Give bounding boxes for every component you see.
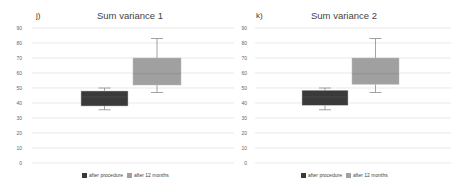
legend-item-after-12-months: after 12 months bbox=[346, 172, 388, 178]
box-iqr bbox=[302, 90, 348, 105]
box-after-12-months bbox=[352, 39, 399, 93]
y-tick-label: 50 bbox=[16, 85, 22, 91]
box-after-12-months bbox=[133, 39, 181, 93]
y-tick-label: 60 bbox=[241, 70, 247, 76]
y-tick-label: 10 bbox=[16, 145, 22, 151]
box-iqr bbox=[133, 58, 181, 85]
legend: after procedure after 12 months bbox=[82, 172, 169, 178]
legend-label: after procedure bbox=[308, 172, 342, 178]
legend-label: after 12 months bbox=[134, 172, 169, 178]
legend-label: after procedure bbox=[89, 172, 123, 178]
y-tick-label: 90 bbox=[241, 25, 247, 31]
y-tick-label: 80 bbox=[241, 40, 247, 46]
chart-panel-2: k) Sum variance 2 0102030405060708090 af… bbox=[234, 0, 469, 188]
legend-swatch bbox=[127, 173, 132, 178]
plot-area: 0102030405060708090 bbox=[0, 0, 234, 188]
legend-swatch bbox=[82, 173, 87, 178]
box-after-procedure bbox=[81, 88, 128, 110]
plot-area: 0102030405060708090 bbox=[234, 0, 469, 188]
y-tick-label: 20 bbox=[16, 130, 22, 136]
box-iqr bbox=[352, 58, 399, 84]
y-tick-label: 10 bbox=[241, 145, 247, 151]
legend-item-after-12-months: after 12 months bbox=[127, 172, 169, 178]
chart-panel-1: j) Sum variance 1 0102030405060708090 af… bbox=[0, 0, 234, 188]
y-tick-label: 50 bbox=[241, 85, 247, 91]
legend-label: after 12 months bbox=[353, 172, 388, 178]
y-tick-label: 40 bbox=[16, 100, 22, 106]
y-tick-label: 20 bbox=[241, 130, 247, 136]
legend-swatch bbox=[301, 173, 306, 178]
y-tick-label: 0 bbox=[244, 160, 247, 166]
legend-item-after-procedure: after procedure bbox=[301, 172, 342, 178]
y-tick-label: 80 bbox=[16, 40, 22, 46]
y-tick-label: 90 bbox=[16, 25, 22, 31]
y-tick-label: 30 bbox=[16, 115, 22, 121]
legend-swatch bbox=[346, 173, 351, 178]
box-iqr bbox=[81, 91, 128, 106]
legend: after procedure after 12 months bbox=[301, 172, 388, 178]
y-tick-label: 60 bbox=[16, 70, 22, 76]
y-tick-label: 0 bbox=[19, 160, 22, 166]
legend-item-after-procedure: after procedure bbox=[82, 172, 123, 178]
y-tick-label: 40 bbox=[241, 100, 247, 106]
y-tick-label: 70 bbox=[241, 55, 247, 61]
y-tick-label: 30 bbox=[241, 115, 247, 121]
box-after-procedure bbox=[302, 88, 348, 110]
y-tick-label: 70 bbox=[16, 55, 22, 61]
